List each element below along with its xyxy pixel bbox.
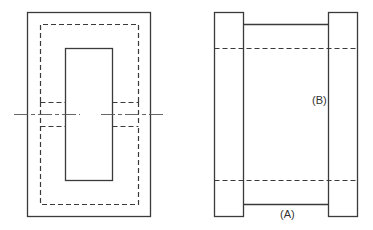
label-b: (B) [312, 94, 327, 106]
diagram-canvas: (B) (A) [0, 0, 373, 230]
dashed-outline-bottom [41, 126, 139, 205]
label-a: (A) [280, 208, 295, 220]
dashed-outline-top [41, 25, 139, 103]
right-flange [329, 13, 358, 217]
right-view: (B) (A) [215, 13, 358, 221]
left-view [14, 13, 166, 217]
left-flange [215, 13, 244, 217]
